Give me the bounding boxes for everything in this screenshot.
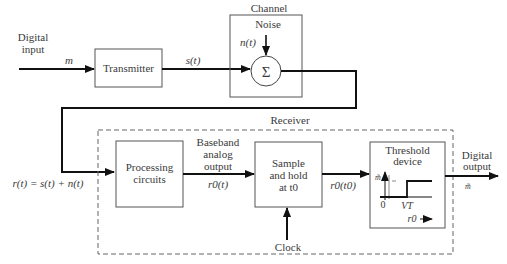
noise-signal: n(t) — [240, 36, 256, 49]
threshold-x-axis-label: r0 — [408, 213, 417, 224]
processing-label-line2: circuits — [133, 173, 165, 185]
sampled-signal: r0(t0) — [330, 179, 356, 192]
output-symbol: m̃ — [465, 182, 471, 191]
channel-label: Channel — [251, 2, 288, 14]
summer-symbol: Σ — [262, 64, 271, 80]
threshold-line2: device — [393, 155, 422, 167]
baseband-line2: analog — [203, 148, 233, 160]
output-label-line2: output — [463, 160, 491, 172]
receiver-label: Receiver — [270, 114, 309, 126]
threshold-vt-label: VT — [401, 200, 414, 211]
transmitter-output-signal: s(t) — [186, 54, 201, 67]
transmitter-label: Transmitter — [103, 62, 154, 74]
threshold-y-axis-label: m̃ — [375, 173, 381, 182]
input-label-line2: input — [22, 43, 45, 55]
input-label-line1: Digital — [18, 31, 49, 43]
baseband-line1: Baseband — [197, 136, 240, 148]
baseband-line3: output — [204, 160, 232, 172]
baseband-signal: r0(t) — [208, 178, 229, 191]
sample-hold-line1: Sample — [272, 157, 305, 169]
noise-label: Noise — [255, 18, 281, 30]
sample-hold-line3: at t0 — [279, 181, 299, 193]
clock-label: Clock — [275, 241, 302, 253]
input-symbol: m — [65, 54, 73, 66]
received-signal-label: r(t) = s(t) + n(t) — [12, 177, 83, 190]
threshold-origin-label: 0 — [381, 199, 386, 210]
sample-hold-line2: and hold — [269, 169, 308, 181]
processing-label-line1: Processing — [126, 161, 174, 173]
block-diagram: Digital input m Transmitter s(t) Channel… — [0, 0, 507, 264]
